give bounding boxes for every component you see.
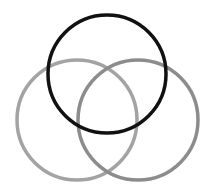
- venn-diagram: [0, 0, 216, 194]
- venn-svg: [0, 0, 216, 194]
- circle-top: [48, 15, 166, 133]
